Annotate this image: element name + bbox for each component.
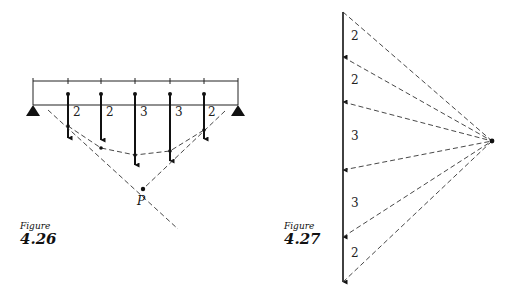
- pole-rays: [343, 12, 492, 282]
- figure-4-27: 2 2 3 3 2: [343, 12, 494, 282]
- caption-number: 4.27: [284, 232, 321, 247]
- figure-4-26: 2 2 3 3 2 P: [26, 78, 245, 229]
- load-label: 2: [208, 105, 216, 119]
- figure-4-27-caption: Figure 4.27: [284, 222, 321, 247]
- load-label: 2: [73, 105, 81, 119]
- caption-number: 4.26: [20, 232, 57, 247]
- load-label: 3: [175, 105, 183, 119]
- load-label: 3: [140, 105, 148, 119]
- funicular-polygon: [48, 110, 225, 229]
- figure-4-26-caption: Figure 4.26: [20, 222, 57, 247]
- diagram-canvas: 2 2 3 3 2 P: [0, 0, 519, 294]
- pole-point: [490, 139, 495, 144]
- segment-label: 3: [351, 129, 359, 143]
- segment-label: 2: [351, 246, 359, 260]
- point-p: [141, 187, 145, 191]
- point-p-label: P: [136, 194, 146, 208]
- segment-label: 2: [351, 29, 359, 43]
- right-support-icon: [231, 105, 245, 116]
- segment-label: 3: [351, 196, 359, 210]
- load-label: 2: [106, 105, 114, 119]
- segment-label: 2: [351, 73, 359, 87]
- left-support-icon: [26, 105, 40, 116]
